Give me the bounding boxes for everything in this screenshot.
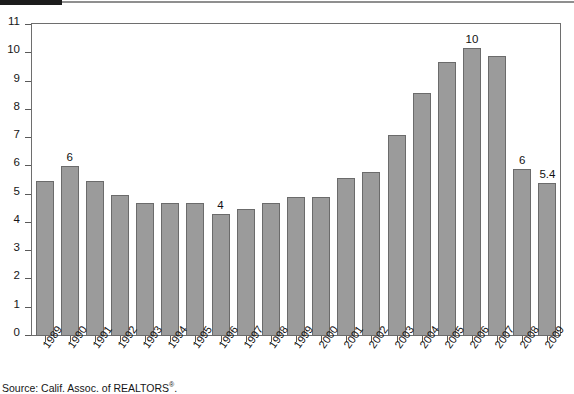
bar	[61, 166, 79, 336]
y-axis-tick-label: 8	[14, 101, 20, 112]
y-axis-tick-label: 5	[14, 186, 20, 197]
source-suffix: .	[174, 382, 177, 394]
bar-value-label: 6	[500, 154, 545, 166]
y-axis-tick-label: 2	[14, 270, 20, 281]
y-axis-tick-mark	[25, 335, 31, 336]
bar	[488, 56, 506, 336]
y-axis-tick-label: 3	[14, 242, 20, 253]
bars-layer: 641065.4	[32, 24, 560, 336]
y-axis-tick-label: 10	[7, 44, 20, 55]
bar	[337, 178, 355, 336]
y-axis-tick-label: 9	[14, 73, 20, 84]
source-note: Source: Calif. Assoc. of REALTORS®.	[2, 379, 177, 394]
bar-value-label: 10	[449, 33, 494, 45]
y-axis-tick-label: 7	[14, 129, 20, 140]
y-axis-tick-label: 6	[14, 157, 20, 168]
bar	[212, 214, 230, 336]
bar	[36, 181, 54, 337]
y-axis-tick-mark	[25, 307, 31, 308]
bar	[538, 183, 556, 336]
bar-chart-figure: 11109876543210 641065.4 1989199019911992…	[0, 8, 574, 391]
y-axis-tick-mark	[25, 137, 31, 138]
bar	[388, 135, 406, 336]
bar	[287, 197, 305, 336]
y-axis-tick-label: 0	[14, 327, 20, 338]
y-axis-tick-label: 11	[8, 16, 20, 27]
y-axis-tick-mark	[25, 278, 31, 279]
source-text: Source: Calif. Assoc. of REALTORS	[2, 382, 169, 394]
y-axis-tick-mark	[25, 222, 31, 223]
y-axis-tick-mark	[25, 52, 31, 53]
bar	[111, 195, 129, 336]
bar	[463, 48, 481, 336]
bar	[438, 62, 456, 336]
bar	[161, 203, 179, 336]
y-axis-tick-label: 1	[14, 299, 20, 310]
top-accent-bar	[0, 0, 62, 5]
bar	[237, 209, 255, 336]
bar	[362, 172, 380, 336]
y-axis-tick-mark	[25, 81, 31, 82]
bar	[136, 203, 154, 336]
bar	[513, 169, 531, 336]
y-axis-tick-mark	[25, 250, 31, 251]
bar	[262, 203, 280, 336]
bar	[413, 93, 431, 336]
y-axis-tick-mark	[25, 165, 31, 166]
bar-value-label: 5.4	[525, 168, 570, 180]
y-axis-tick-mark	[25, 194, 31, 195]
bar-value-label: 6	[47, 151, 92, 163]
top-divider-rule	[62, 1, 574, 3]
y-axis-tick-mark	[25, 24, 31, 25]
bar	[86, 181, 104, 337]
y-axis-tick-mark	[25, 109, 31, 110]
bar	[312, 197, 330, 336]
bar	[186, 203, 204, 336]
y-axis-tick-label: 4	[14, 214, 20, 225]
